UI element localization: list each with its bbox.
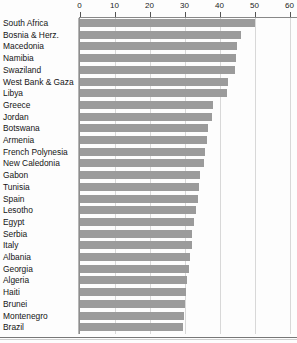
category-label: Algeria	[3, 275, 77, 286]
category-label: French Polynesia	[3, 147, 77, 158]
bar	[80, 171, 200, 179]
category-label: West Bank & Gaza	[3, 77, 77, 88]
category-label: South Africa	[3, 18, 77, 29]
chart-row: Tunisia	[0, 182, 297, 194]
chart-row: Botswana	[0, 123, 297, 135]
bar	[80, 54, 236, 62]
chart-row: French Polynesia	[0, 147, 297, 159]
bar-chart: 0102030405060 South AfricaBosnia & Herz.…	[0, 0, 297, 343]
x-tick-label: 20	[145, 1, 154, 10]
x-tick-label: 10	[110, 1, 119, 10]
bar	[80, 89, 227, 97]
category-label: Haiti	[3, 287, 77, 298]
bar	[80, 323, 183, 331]
chart-row: South Africa	[0, 18, 297, 30]
chart-row: Algeria	[0, 275, 297, 287]
chart-row: Montenegro	[0, 311, 297, 323]
category-label: Italy	[3, 240, 77, 251]
bar	[80, 113, 212, 121]
bar	[80, 78, 228, 86]
x-axis: 0102030405060	[0, 0, 297, 18]
bar	[80, 300, 185, 308]
category-label: Spain	[3, 194, 77, 205]
x-tick-label: 40	[215, 1, 224, 10]
x-tick-label: 50	[250, 1, 259, 10]
chart-row: Libya	[0, 88, 297, 100]
x-tick-label: 0	[77, 1, 82, 10]
bar	[80, 66, 235, 74]
bar	[80, 265, 189, 273]
category-label: Lesotho	[3, 205, 77, 216]
category-label: New Caledonia	[3, 158, 77, 169]
category-label: Macedonia	[3, 41, 77, 52]
category-label: Swaziland	[3, 65, 77, 76]
bottom-rule	[0, 337, 297, 338]
category-label: Brunei	[3, 299, 77, 310]
bar	[80, 148, 205, 156]
chart-row: Spain	[0, 194, 297, 206]
bar	[80, 42, 237, 50]
bar	[80, 19, 255, 27]
bar	[80, 218, 194, 226]
chart-row: Georgia	[0, 264, 297, 276]
x-tick-label: 30	[180, 1, 189, 10]
category-label: Bosnia & Herz.	[3, 30, 77, 41]
category-label: Georgia	[3, 264, 77, 275]
category-label: Egypt	[3, 217, 77, 228]
category-label: Serbia	[3, 229, 77, 240]
chart-row: Serbia	[0, 229, 297, 241]
bar	[80, 230, 192, 238]
plot-area: South AfricaBosnia & Herz.MacedoniaNamib…	[0, 18, 297, 334]
chart-row: Armenia	[0, 135, 297, 147]
bar	[80, 288, 186, 296]
bar	[80, 31, 241, 39]
bar	[80, 136, 207, 144]
chart-row: New Caledonia	[0, 158, 297, 170]
chart-row: Namibia	[0, 53, 297, 65]
category-label: Gabon	[3, 170, 77, 181]
chart-row: Haiti	[0, 287, 297, 299]
bar	[80, 253, 190, 261]
chart-row: Egypt	[0, 217, 297, 229]
category-label: Montenegro	[3, 311, 77, 322]
category-label: Greece	[3, 100, 77, 111]
category-label: Albania	[3, 252, 77, 263]
category-label: Libya	[3, 88, 77, 99]
bar	[80, 195, 198, 203]
chart-row: Gabon	[0, 170, 297, 182]
chart-row: Italy	[0, 240, 297, 252]
chart-row: Brunei	[0, 299, 297, 311]
category-label: Botswana	[3, 123, 77, 134]
x-tick-label: 60	[285, 1, 294, 10]
chart-row: Greece	[0, 100, 297, 112]
category-label: Namibia	[3, 53, 77, 64]
chart-row: Macedonia	[0, 41, 297, 53]
chart-row: Brazil	[0, 322, 297, 334]
chart-row: Jordan	[0, 112, 297, 124]
chart-row: Swaziland	[0, 65, 297, 77]
chart-row: Lesotho	[0, 205, 297, 217]
category-label: Tunisia	[3, 182, 77, 193]
chart-row: Albania	[0, 252, 297, 264]
bottom-rule-secondary	[0, 339, 297, 340]
category-label: Jordan	[3, 112, 77, 123]
bar	[80, 101, 213, 109]
bar	[80, 159, 204, 167]
category-label: Armenia	[3, 135, 77, 146]
bar	[80, 276, 187, 284]
chart-row: Bosnia & Herz.	[0, 30, 297, 42]
bar	[80, 241, 192, 249]
bar	[80, 183, 199, 191]
bar	[80, 124, 208, 132]
bar	[80, 206, 196, 214]
chart-row: West Bank & Gaza	[0, 77, 297, 89]
category-label: Brazil	[3, 322, 77, 333]
bar	[80, 312, 184, 320]
